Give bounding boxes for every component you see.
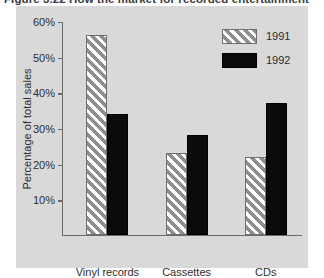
y-tick-60 (58, 22, 63, 23)
y-tick-label-60: 60% (33, 16, 55, 28)
legend-swatch-1991 (222, 29, 257, 44)
bar-vinyl-records-1991 (86, 35, 107, 235)
y-tick-label-50: 50% (33, 52, 55, 64)
y-tick-label-10: 10% (33, 194, 55, 206)
y-tick-label-40: 40% (33, 87, 55, 99)
figure-container: Figure 3.22 How the market for recorded … (0, 0, 324, 278)
legend-swatch-1992 (222, 53, 257, 68)
x-axis-label-cds: CDs (255, 266, 276, 278)
x-axis-label-vinyl-records: Vinyl records (76, 266, 139, 278)
y-axis-title: Percentage of total sales (20, 22, 34, 236)
bar-vinyl-records-1992 (107, 114, 128, 235)
bar-cassettes-1992 (187, 135, 208, 235)
bar-cds-1992 (266, 103, 287, 235)
legend-item-1992: 1992 (222, 51, 290, 69)
legend-label-1992: 1992 (266, 54, 290, 66)
bar-cds-1991 (245, 157, 266, 235)
legend: 1991 1992 (222, 27, 290, 75)
legend-item-1991: 1991 (222, 27, 290, 45)
y-tick-10 (58, 200, 63, 201)
y-tick-50 (58, 58, 63, 59)
y-tick-label-30: 30% (33, 123, 55, 135)
y-tick-20 (58, 165, 63, 166)
legend-label-1991: 1991 (266, 30, 290, 42)
y-axis-title-text: Percentage of total sales (21, 68, 33, 189)
y-tick-30 (58, 129, 63, 130)
x-axis-label-cassettes: Cassettes (162, 266, 211, 278)
bar-cassettes-1991 (166, 153, 187, 235)
y-tick-label-20: 20% (33, 159, 55, 171)
y-tick-40 (58, 93, 63, 94)
